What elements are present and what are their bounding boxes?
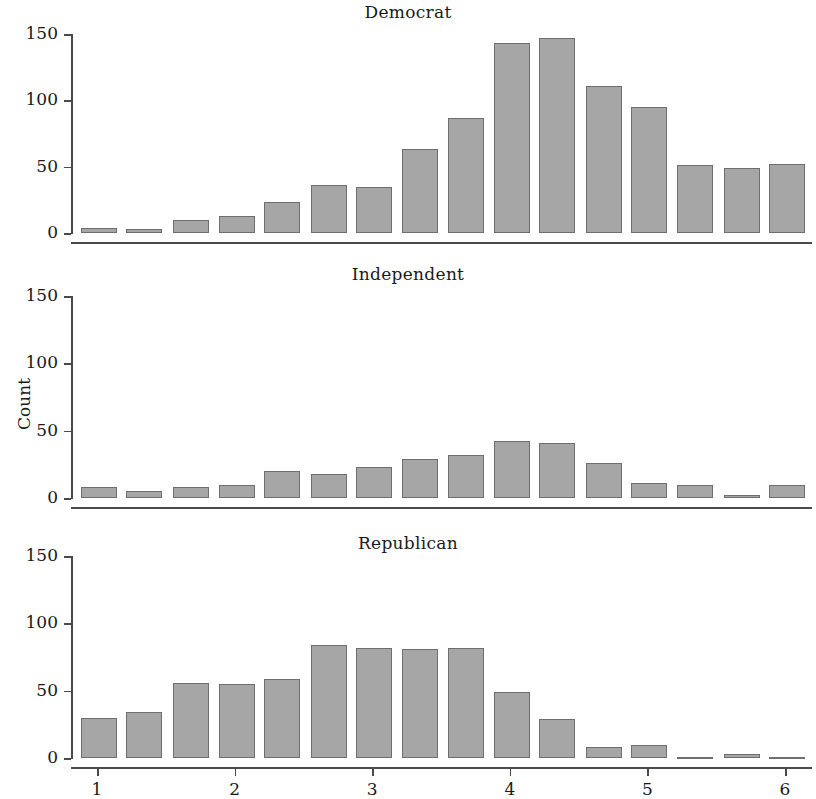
y-axis-tick-label: 100 [0, 612, 58, 632]
bar [81, 228, 117, 233]
bar [356, 187, 392, 233]
bar [126, 491, 162, 498]
bar [769, 757, 805, 759]
bar [724, 495, 760, 498]
y-axis-tick [64, 691, 71, 693]
bar [219, 485, 255, 498]
y-axis-tick [64, 556, 71, 558]
y-axis-tick [64, 296, 71, 298]
bar [311, 645, 347, 758]
x-axis-tick [510, 768, 512, 776]
y-axis-tick [64, 498, 71, 500]
bar [311, 474, 347, 498]
panel-democrat: Democrat050100150 [0, 0, 816, 275]
panel-title: Democrat [0, 2, 816, 22]
bar [448, 455, 484, 498]
bar [311, 185, 347, 233]
y-axis-tick-label: 0 [0, 487, 58, 507]
x-axis-tick-label: 2 [205, 779, 265, 799]
bar [264, 202, 300, 233]
bar [677, 757, 713, 759]
bar [631, 107, 667, 233]
y-axis-line [71, 34, 73, 234]
panel-title: Republican [0, 533, 816, 553]
bar [586, 86, 622, 233]
x-axis-tick [97, 768, 99, 776]
x-axis-tick-label: 1 [67, 779, 127, 799]
x-axis-line [71, 242, 812, 244]
bar [81, 718, 117, 758]
bar [126, 712, 162, 758]
bar [586, 463, 622, 498]
x-axis-tick [235, 768, 237, 776]
bar [677, 485, 713, 498]
panel-republican: Republican050100150123456 [0, 531, 816, 799]
bar [219, 684, 255, 758]
bar [586, 747, 622, 758]
panel-title: Independent [0, 264, 816, 284]
bar [173, 487, 209, 498]
panel-independent: Independent050100150 [0, 262, 816, 540]
bar [494, 43, 530, 233]
y-axis-tick-label: 50 [0, 680, 58, 700]
y-axis-tick [64, 233, 71, 235]
y-axis-tick-label: 0 [0, 747, 58, 767]
bar [448, 648, 484, 758]
bar [539, 443, 575, 498]
bar [631, 483, 667, 498]
bar [724, 168, 760, 233]
bar [402, 459, 438, 498]
y-axis-tick-label: 0 [0, 222, 58, 242]
y-axis-line [71, 556, 73, 759]
bar [539, 719, 575, 758]
bar [356, 467, 392, 498]
bar [494, 441, 530, 498]
x-axis-tick [785, 768, 787, 776]
bar [677, 165, 713, 233]
bar [448, 118, 484, 233]
y-axis-label: Count [14, 378, 34, 430]
bar [173, 220, 209, 233]
y-axis-tick [64, 758, 71, 760]
y-axis-tick-label: 150 [0, 545, 58, 565]
x-axis-tick-label: 5 [617, 779, 677, 799]
y-axis-tick-label: 100 [0, 352, 58, 372]
x-axis-tick [372, 768, 374, 776]
bar [264, 679, 300, 758]
bar [402, 649, 438, 758]
bar [126, 229, 162, 233]
y-axis-tick-label: 150 [0, 285, 58, 305]
bar [356, 648, 392, 758]
bar [724, 754, 760, 758]
histogram-figure: Democrat050100150Independent050100150Rep… [0, 0, 816, 799]
bar [539, 38, 575, 233]
bar [769, 164, 805, 233]
bar [494, 692, 530, 758]
bar [631, 745, 667, 758]
y-axis-tick-label: 50 [0, 156, 58, 176]
y-axis-tick [64, 100, 71, 102]
bar [219, 216, 255, 233]
y-axis-tick [64, 623, 71, 625]
x-axis-line [71, 507, 812, 509]
bar [81, 487, 117, 498]
x-axis-line [71, 767, 812, 769]
x-axis-tick-label: 4 [480, 779, 540, 799]
bar [402, 149, 438, 233]
y-axis-tick [64, 363, 71, 365]
bar [173, 683, 209, 758]
y-axis-tick-label: 150 [0, 23, 58, 43]
x-axis-tick [647, 768, 649, 776]
x-axis-tick-label: 3 [342, 779, 402, 799]
y-axis-tick [64, 34, 71, 36]
y-axis-tick-label: 100 [0, 89, 58, 109]
y-axis-line [71, 296, 73, 499]
y-axis-tick [64, 431, 71, 433]
bar [769, 485, 805, 498]
x-axis-tick-label: 6 [755, 779, 815, 799]
y-axis-tick [64, 167, 71, 169]
bar [264, 471, 300, 498]
